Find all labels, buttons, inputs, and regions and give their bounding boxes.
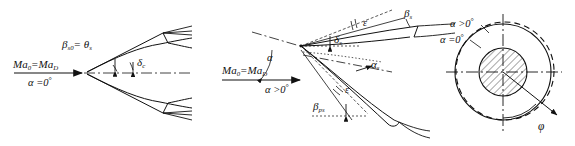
right-alpha-zero-label: α =0° bbox=[440, 33, 464, 45]
mid-delta-s-label: δs bbox=[334, 33, 342, 46]
right-alpha-positive-label: α >0° bbox=[450, 17, 474, 29]
left-blade-upper-shock-c bbox=[163, 33, 192, 35]
left-blade-upper-wake-top bbox=[160, 38, 192, 44]
right-panel-group bbox=[446, 14, 562, 134]
mid-beta-ps-label: βps bbox=[313, 100, 325, 113]
mid-blade-lower-wake bbox=[394, 120, 430, 131]
right-phi-label: φ bbox=[538, 120, 544, 132]
mid-blade-upper-close bbox=[414, 26, 418, 37]
left-blade-upper-wake-bot bbox=[168, 43, 192, 48]
left-inflow-mach-label: Ma0=MaD bbox=[13, 58, 58, 71]
mid-blade-upper-suction bbox=[301, 26, 418, 46]
left-blade-lower-shock-c bbox=[163, 111, 192, 113]
left-delta-label: δc bbox=[137, 56, 145, 69]
mid-lower-epsilon-arc2 bbox=[333, 89, 340, 95]
mid-beta-s-arc bbox=[406, 19, 410, 27]
mid-epsilon-top-label: ε bbox=[363, 17, 367, 28]
left-alpha-label: α =0° bbox=[28, 76, 52, 88]
mid-upper-epsilon-arc bbox=[355, 19, 357, 28]
left-blade-lower-wake-top bbox=[168, 98, 192, 103]
mid-lower-epsilon-arc bbox=[336, 86, 343, 92]
left-blade-lower-wake-bot bbox=[160, 102, 192, 108]
left-blade-upper-trailing-bridge bbox=[163, 33, 168, 43]
mid-upper-shock-2 bbox=[301, 18, 404, 46]
mid-inflow-mach-label: Ma0=MaD bbox=[222, 64, 267, 77]
mid-alpha-flow-label: α >0° bbox=[265, 83, 289, 95]
mid-alpha-s-arrow bbox=[356, 66, 372, 71]
left-panel-group bbox=[14, 26, 192, 120]
left-blade-lower-trailing-bridge bbox=[163, 103, 168, 113]
mid-beta-s-label: βs bbox=[404, 7, 412, 20]
alpha-zero-leader bbox=[470, 40, 481, 48]
figure-container: Ma0=MaD α =0° βs0= θs δc Ma0=MaD α >0° α… bbox=[0, 0, 575, 146]
left-blade-upper-pressure bbox=[87, 44, 160, 72]
mid-alpha-s-label: αs bbox=[371, 58, 379, 71]
mid-blade-lower-close bbox=[388, 122, 399, 126]
mid-chord-reference bbox=[252, 32, 300, 46]
mid-epsilon-bottom-label: ε bbox=[345, 84, 349, 95]
left-beta-label: βs0= θs bbox=[62, 38, 92, 51]
figure-vector bbox=[0, 0, 575, 146]
left-blade-lower-pressure bbox=[87, 74, 160, 102]
mid-alpha-angle-label: α bbox=[267, 52, 273, 63]
